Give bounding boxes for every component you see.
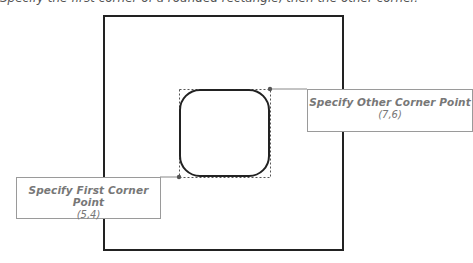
callout-first-coord: (5,4): [17, 209, 160, 220]
rounded-rectangle-shape[interactable]: [180, 90, 269, 176]
selection-bounding-box: [180, 90, 271, 178]
callout-other-coord: (7,6): [308, 109, 472, 120]
callout-first-title: Specify First Corner Point: [17, 184, 160, 208]
first-corner-point[interactable]: [177, 175, 181, 179]
callout-other-corner: Specify Other Corner Point (7,6): [307, 89, 473, 132]
other-corner-point[interactable]: [268, 87, 272, 91]
callout-other-title: Specify Other Corner Point: [308, 96, 472, 108]
callout-first-corner: Specify First Corner Point (5,4): [16, 177, 161, 219]
